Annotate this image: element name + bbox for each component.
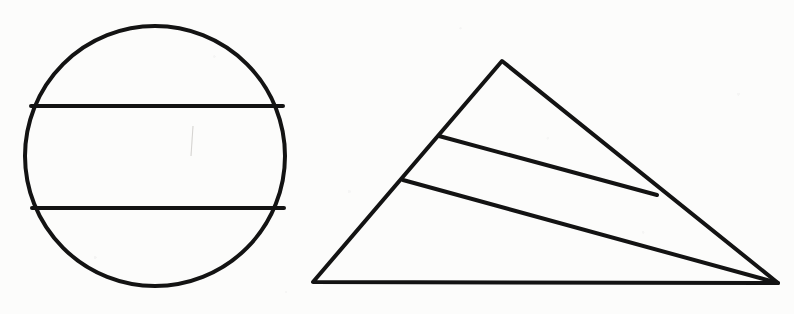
triangle-outline: [313, 61, 778, 283]
figure-triangle-group: [313, 61, 778, 283]
figures-canvas: [0, 0, 794, 314]
scan-artifact-streak: [191, 126, 193, 156]
circle-outline: [25, 26, 285, 286]
figure-circle-group: [25, 26, 285, 286]
triangle-lower-cevian: [403, 180, 778, 283]
triangle-upper-cevian: [439, 136, 657, 195]
scanned-figure-page: [0, 0, 794, 314]
